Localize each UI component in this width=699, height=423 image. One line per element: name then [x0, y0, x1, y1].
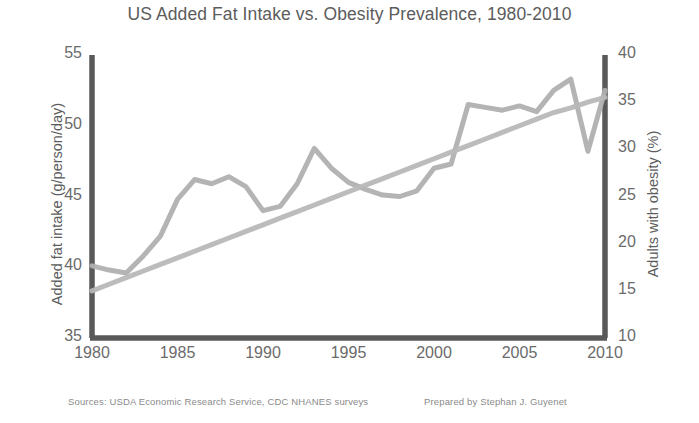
- footer-credit: Prepared by Stephan J. Guyenet: [424, 396, 567, 407]
- series-obesity-line: [92, 97, 605, 290]
- chart-container: US Added Fat Intake vs. Obesity Prevalen…: [0, 0, 699, 423]
- axis-frame: [90, 55, 607, 338]
- series-layer: [92, 79, 605, 291]
- plot-area: [0, 0, 699, 423]
- series-fat-intake-line: [92, 79, 605, 273]
- footer-sources: Sources: USDA Economic Research Service,…: [68, 396, 368, 407]
